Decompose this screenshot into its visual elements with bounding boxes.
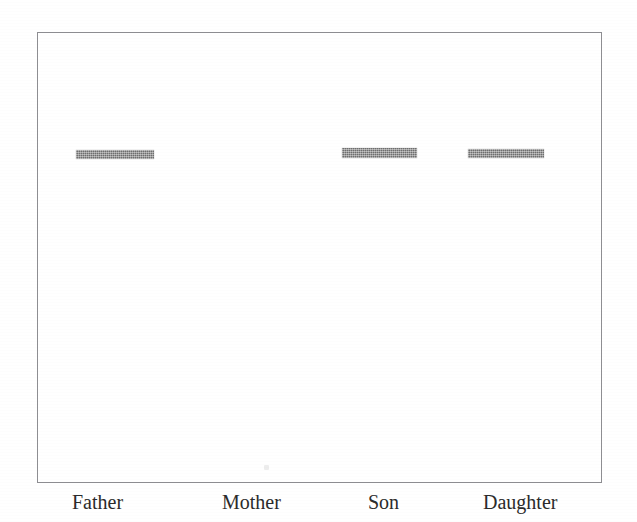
gel-lane-father[interactable] [76,33,154,482]
gel-lane-daughter[interactable] [468,33,544,482]
lane-label-daughter: Daughter [483,489,557,515]
gel-plot-area [37,32,602,483]
gel-lane-mother[interactable] [221,33,299,482]
dna-band-father[interactable] [76,150,154,159]
dna-band-daughter[interactable] [468,149,544,158]
scan-artifact-speck [264,465,269,470]
gel-electrophoresis-figure: Father Mother Son Daughter [0,0,637,522]
lane-label-father: Father [72,489,123,515]
gel-lane-son[interactable] [342,33,417,482]
lane-label-son: Son [368,489,399,515]
dna-band-son[interactable] [342,148,417,158]
gel-lanes-layer [38,33,601,482]
lane-label-mother: Mother [222,489,281,515]
lane-label-row: Father Mother Son Daughter [37,489,602,522]
